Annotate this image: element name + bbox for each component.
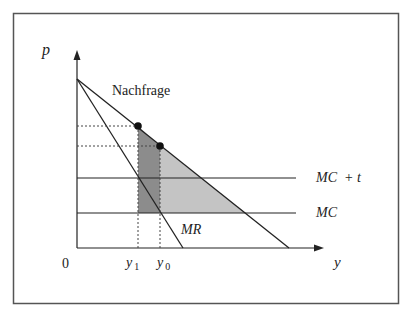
y1-label: y1 xyxy=(126,256,139,272)
mr-label: MR xyxy=(181,223,201,237)
x-axis-arrow-icon xyxy=(314,245,324,252)
origin-label: 0 xyxy=(62,257,69,271)
mc-label: MC xyxy=(316,206,337,220)
mc-tax-label: MC + t xyxy=(316,171,361,185)
y0-base: y xyxy=(157,255,163,270)
y-axis-arrow-icon xyxy=(74,50,81,60)
equilibrium-point-tax xyxy=(134,122,142,130)
demand-label: Nachfrage xyxy=(112,84,170,98)
equilibrium-point-notax xyxy=(156,142,164,150)
p-axis-label: p xyxy=(42,42,50,58)
x-axis-label: y xyxy=(334,255,341,270)
y0-subscript: 0 xyxy=(165,261,170,272)
y0-label: y0 xyxy=(157,256,170,272)
y1-subscript: 1 xyxy=(134,261,139,272)
y1-base: y xyxy=(126,255,132,270)
dark-region xyxy=(138,126,160,213)
